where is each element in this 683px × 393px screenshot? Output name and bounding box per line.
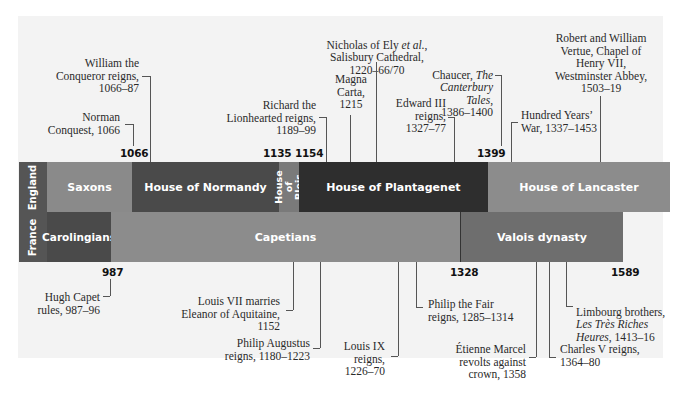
leader-line bbox=[416, 262, 417, 307]
event-limbourg-brothers: Limbourg brothers,Les Très RichesHeures,… bbox=[576, 293, 676, 343]
band-saxons: Saxons bbox=[47, 162, 132, 212]
leader-line bbox=[549, 262, 550, 357]
band-capetians: Capetians bbox=[111, 212, 460, 262]
event-etienne-marcel: Étienne Marcel revolts against crown, 13… bbox=[448, 343, 526, 381]
band-carolingians: Carolingians bbox=[47, 212, 111, 262]
band-house-of-plantagenet: House of Plantagenet bbox=[299, 162, 488, 212]
event-louis-vii: Louis VII marries Eleanor of Aquitaine, … bbox=[176, 295, 280, 333]
row-label-england: England bbox=[19, 162, 47, 212]
leader-line bbox=[150, 76, 151, 162]
year-1589: 1589 bbox=[611, 266, 639, 278]
year-1066: 1066 bbox=[120, 147, 148, 159]
event-norman-conquest: Norman Conquest, 1066 bbox=[30, 111, 120, 136]
leader-line bbox=[566, 262, 567, 306]
year-987: 987 bbox=[102, 266, 123, 278]
leader-line bbox=[416, 307, 423, 308]
leader-line bbox=[286, 310, 293, 311]
leader-line bbox=[293, 262, 294, 310]
leader-line bbox=[326, 117, 327, 162]
leader-line bbox=[125, 124, 133, 125]
leader-line bbox=[511, 122, 518, 123]
leader-line bbox=[536, 262, 537, 357]
leader-line bbox=[142, 76, 150, 77]
event-louis-ix: Louis IX reigns, 1226–70 bbox=[330, 340, 385, 378]
event-salisbury-cathedral: Nicholas of Ely et al.,Salisbury Cathedr… bbox=[323, 26, 431, 76]
event-hugh-capet: Hugh Capet rules, 987–96 bbox=[20, 291, 100, 316]
leader-line bbox=[103, 296, 110, 297]
event-philip-augustus: Philip Augustus reigns, 1180–1223 bbox=[213, 337, 310, 362]
leader-line bbox=[133, 124, 134, 146]
leader-line bbox=[529, 357, 536, 358]
band-house-of-lancaster: House of Lancaster bbox=[488, 162, 670, 212]
band-house-of-blois: House of Blois bbox=[279, 162, 299, 212]
leader-line bbox=[398, 262, 399, 356]
limbourg-text: Limbourg brothers,Les Très RichesHeures,… bbox=[576, 306, 665, 343]
event-philip-the-fair: Philip the Fair reigns, 1285–1314 bbox=[428, 298, 528, 323]
chaucer-text: Chaucer, TheCanterbury Tales,1386–1400 bbox=[432, 69, 493, 119]
leader-line bbox=[501, 75, 502, 146]
leader-line bbox=[600, 96, 601, 162]
event-chaucer: Chaucer, TheCanterbury Tales,1386–1400 bbox=[418, 56, 493, 119]
leader-line bbox=[319, 117, 326, 118]
event-magna-carta: Magna Carta, 1215 bbox=[326, 73, 376, 111]
salisbury-text: Nicholas of Ely et al.,Salisbury Cathedr… bbox=[327, 39, 428, 76]
leader-line bbox=[350, 115, 351, 162]
band-house-of-normandy: House of Normandy bbox=[132, 162, 279, 212]
leader-line bbox=[320, 262, 321, 348]
leader-line bbox=[454, 117, 455, 162]
leader-line bbox=[110, 279, 111, 296]
year-1399: 1399 bbox=[477, 147, 505, 159]
event-richard-lionhearted: Richard the Lionhearted reigns, 1189–99 bbox=[226, 99, 316, 137]
band-valois-dynasty: Valois dynasty bbox=[460, 212, 623, 262]
leader-line bbox=[549, 357, 556, 358]
event-chapel-henry-vii: Robert and William Vertue, Chapel of Hen… bbox=[550, 32, 652, 95]
leader-line bbox=[376, 62, 377, 162]
year-1135-1154: 1135 1154 bbox=[263, 147, 323, 159]
event-william-conqueror: William the Conqueror reigns, 1066–87 bbox=[20, 57, 139, 95]
leader-line bbox=[511, 122, 512, 162]
event-charles-v: Charles V reigns, 1364–80 bbox=[560, 343, 655, 368]
leader-line bbox=[391, 356, 398, 357]
year-1328: 1328 bbox=[450, 266, 478, 278]
event-hundred-years-war: Hundred Years’ War, 1337–1453 bbox=[521, 109, 621, 134]
leader-line bbox=[566, 306, 573, 307]
leader-line bbox=[313, 348, 320, 349]
